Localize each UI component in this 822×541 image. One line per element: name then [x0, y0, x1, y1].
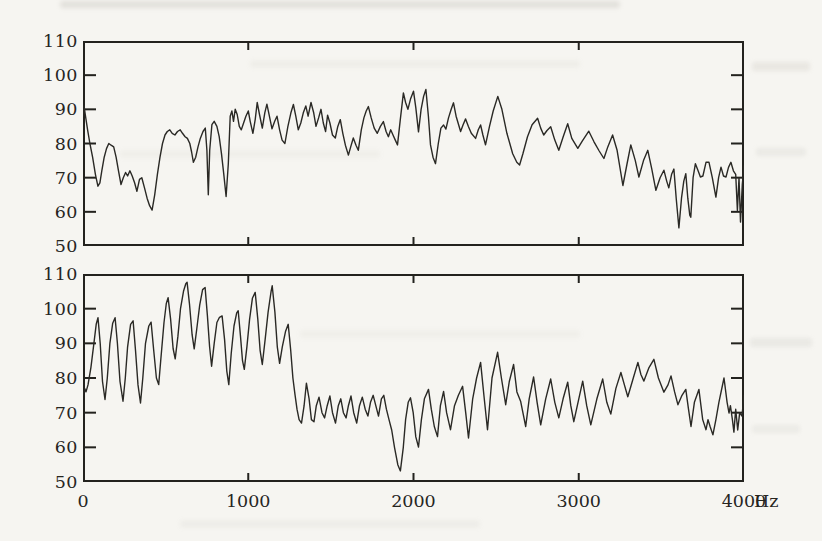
y-tick-label: 90 — [26, 333, 78, 353]
bleed-text-smudge — [180, 520, 480, 528]
y-tick-label: 80 — [26, 134, 78, 154]
y-tick-label: 110 — [26, 264, 78, 284]
bleed-text-smudge — [756, 148, 806, 156]
y-tick-label: 110 — [26, 31, 78, 51]
y-tick-label: 100 — [26, 299, 78, 319]
scanned-figure-page: 5060708090100110 5060708090100110 010002… — [0, 0, 822, 541]
y-tick-label: 90 — [26, 99, 78, 119]
plot-frame-svg — [83, 41, 744, 246]
spectrum-panel-bottom — [83, 274, 744, 482]
bleed-text-smudge — [752, 62, 810, 71]
bleed-text-smudge — [752, 425, 800, 433]
x-tick-label: 3000 — [539, 491, 619, 511]
bleed-text-smudge — [60, 1, 620, 8]
spectrum-panel-top — [83, 41, 744, 246]
y-tick-label: 70 — [26, 403, 78, 423]
plot-frame-svg — [83, 274, 744, 482]
y-tick-label: 60 — [26, 202, 78, 222]
x-tick-label: 0 — [43, 491, 123, 511]
y-tick-label: 60 — [26, 437, 78, 457]
y-tick-label: 80 — [26, 368, 78, 388]
y-tick-label: 50 — [26, 236, 78, 256]
x-axis-unit-label: Hz — [754, 491, 778, 511]
y-tick-label: 70 — [26, 168, 78, 188]
x-tick-label: 2000 — [374, 491, 454, 511]
y-tick-label: 50 — [26, 472, 78, 492]
x-tick-label: 1000 — [208, 491, 288, 511]
bleed-text-smudge — [750, 338, 812, 347]
y-tick-label: 100 — [26, 65, 78, 85]
